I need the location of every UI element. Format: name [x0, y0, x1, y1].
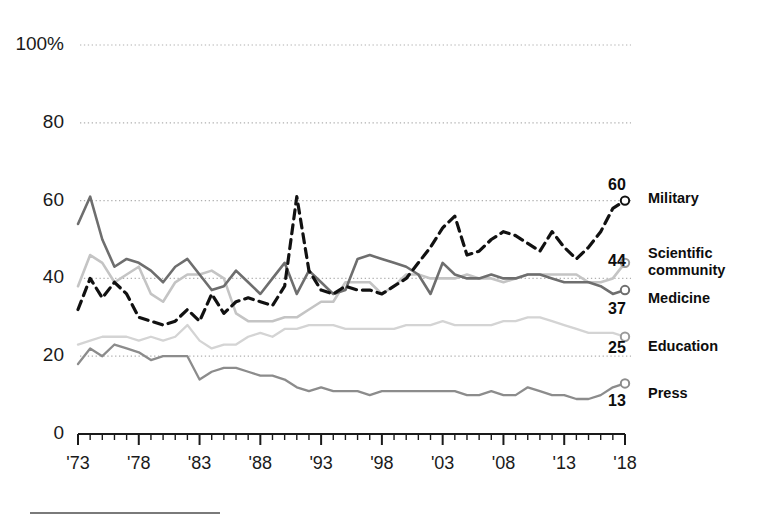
x-tick-83: '83	[177, 453, 223, 474]
gridlines	[80, 45, 631, 356]
y-tick-80: 80	[0, 111, 64, 133]
x-tick-78: '78	[116, 453, 162, 474]
end-value-press: 13	[608, 392, 626, 410]
y-tick-60: 60	[0, 189, 64, 211]
end-value-education: 25	[608, 339, 626, 357]
endpoint-markers	[621, 196, 629, 387]
x-tick-08: '08	[480, 453, 526, 474]
footer-rule	[30, 512, 220, 514]
x-tick-88: '88	[237, 453, 283, 474]
series-label-press: Press	[648, 385, 688, 402]
x-tick-93: '93	[298, 453, 344, 474]
x-tick-13: '13	[541, 453, 587, 474]
x-tick-98: '98	[359, 453, 405, 474]
x-axis	[78, 434, 625, 445]
series-label-scientific: Scientific community	[648, 245, 725, 279]
series-lines	[78, 197, 625, 399]
y-tick-0: 0	[0, 422, 64, 444]
end-value-military: 60	[608, 176, 626, 194]
y-tick-40: 40	[0, 266, 64, 288]
end-value-scientific: 44	[608, 252, 626, 270]
x-tick-03: '03	[420, 453, 466, 474]
series-label-military: Military	[648, 190, 699, 207]
x-tick-18: '18	[602, 453, 648, 474]
x-tick-73: '73	[55, 453, 101, 474]
y-tick-100: 100%	[0, 33, 64, 55]
series-label-medicine: Medicine	[648, 290, 710, 307]
chart-container: 100%806040200 '73'78'83'88'93'98'03'08'1…	[0, 0, 764, 519]
series-label-education: Education	[648, 338, 718, 355]
y-tick-20: 20	[0, 344, 64, 366]
end-value-medicine: 37	[608, 300, 626, 318]
